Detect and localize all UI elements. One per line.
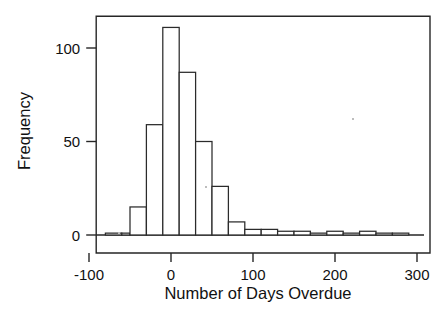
histogram-bar [130, 207, 146, 235]
y-axis-label: Frequency [15, 91, 33, 170]
histogram-bar [122, 233, 130, 235]
histogram-bar [245, 229, 261, 235]
histogram-bar [310, 233, 326, 235]
histogram-plot-area: 050100 -1000100200300 Frequency Number o… [0, 0, 444, 313]
histogram-bar [392, 233, 408, 235]
x-axis-label: Number of Days Overdue [164, 284, 351, 302]
scan-speck [205, 186, 207, 188]
histogram-bar [163, 27, 179, 235]
histogram-bar [294, 231, 310, 235]
x-axis-tick-label: 300 [404, 266, 429, 283]
histogram-bars [105, 27, 408, 235]
histogram-bar [261, 229, 277, 235]
histogram-bar [196, 142, 212, 236]
histogram-bar [146, 125, 162, 235]
histogram-bar [360, 231, 376, 235]
histogram-bar [327, 231, 343, 235]
x-axis-tick-label: -100 [74, 266, 104, 283]
y-axis-tick-label: 50 [64, 133, 81, 150]
scan-speck [352, 118, 354, 120]
x-axis-tick-label: 100 [240, 266, 265, 283]
histogram-bar [376, 233, 392, 235]
y-axis-tick-label: 100 [55, 40, 80, 57]
x-axis-tick-label: 0 [167, 266, 175, 283]
histogram-bar [179, 72, 195, 235]
x-axis-tick-label: 200 [322, 266, 347, 283]
histogram-bar [278, 231, 294, 235]
x-axis-tick-labels: -1000100200300 [74, 266, 430, 283]
histogram-bar [343, 233, 359, 235]
y-axis-tick-labels: 050100 [55, 40, 80, 244]
histogram-bar [228, 222, 244, 235]
histogram-figure: 050100 -1000100200300 Frequency Number o… [0, 0, 444, 313]
y-axis-ticks [86, 48, 96, 235]
y-axis-tick-label: 0 [72, 227, 80, 244]
scan-speck [118, 232, 120, 234]
histogram-bar [212, 186, 228, 235]
x-axis-ticks [89, 253, 417, 262]
